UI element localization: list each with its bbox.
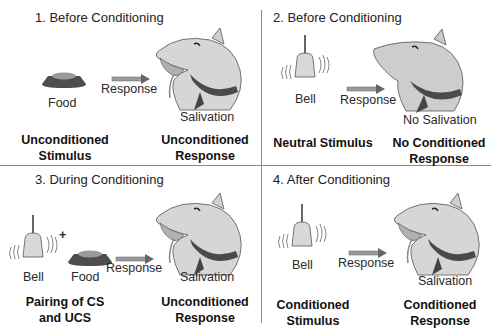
right-caption: Conditioned Response	[385, 297, 491, 329]
bell-icon	[275, 35, 335, 85]
right-caption: Unconditioned Response	[150, 132, 260, 164]
right-caption: No Conditioned Response	[384, 135, 491, 167]
left-caption: Conditioned Stimulus	[263, 297, 363, 329]
left-caption: Neutral Stimulus	[268, 135, 378, 151]
panel-title: 2. Before Conditioning	[273, 10, 402, 25]
arrow-label: Response	[101, 82, 157, 96]
stimulus-label-bell: Bell	[292, 258, 313, 272]
dog-head-icon	[370, 33, 480, 113]
dog-head-icon	[150, 30, 250, 110]
panel-title: 4. After Conditioning	[273, 172, 390, 187]
stimulus-label-food: Food	[48, 96, 77, 110]
food-bowl-icon	[40, 72, 88, 92]
dog-head-icon	[150, 195, 250, 275]
dog-head-icon	[388, 195, 488, 275]
stimulus-label-food: Food	[71, 270, 100, 284]
response-label: Salivation	[418, 274, 472, 288]
panel-title: 3. During Conditioning	[35, 172, 164, 187]
response-label: No Salivation	[403, 113, 477, 127]
left-caption: Unconditioned Stimulus	[10, 132, 120, 164]
stimulus-label-bell: Bell	[23, 270, 44, 284]
arrow-label: Response	[338, 256, 394, 270]
stimulus-label-bell: Bell	[295, 92, 316, 106]
vertical-divider	[261, 10, 262, 323]
bell-icon	[3, 215, 63, 265]
response-label: Salivation	[180, 110, 234, 124]
response-label: Salivation	[180, 270, 234, 284]
panel-title: 1. Before Conditioning	[35, 10, 164, 25]
left-caption: Pairing of CS and UCS	[10, 294, 120, 326]
right-caption: Unconditioned Response	[150, 294, 260, 326]
plus-sign: +	[59, 228, 66, 242]
bell-icon	[272, 204, 332, 254]
